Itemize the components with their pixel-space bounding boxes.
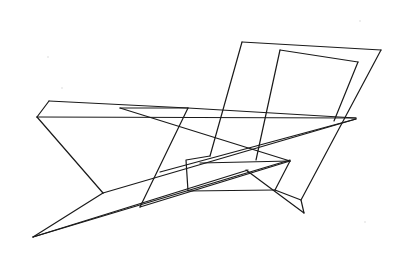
small-triangle-diag xyxy=(120,108,290,161)
speck xyxy=(359,20,361,22)
spike-top-edge xyxy=(103,119,356,193)
back-panel-left xyxy=(210,42,242,156)
spike-lower-2 xyxy=(33,170,248,237)
slab-top-edge xyxy=(49,101,356,118)
inner-panel-right xyxy=(334,62,358,121)
lower-triangle-bottom xyxy=(140,161,290,207)
slab-left-down xyxy=(37,117,103,193)
speck xyxy=(47,56,49,58)
leg-diag xyxy=(246,170,304,213)
inner-panel-left xyxy=(256,50,280,160)
inner-panel-top xyxy=(280,50,358,62)
speck xyxy=(61,87,63,89)
slab-baseline xyxy=(37,117,356,118)
back-panel-right xyxy=(301,50,381,200)
spike-upper xyxy=(33,193,103,237)
wireframe-drawing xyxy=(0,0,403,254)
mid-line-1 xyxy=(160,119,356,172)
speck xyxy=(364,221,366,223)
back-panel-top xyxy=(242,42,381,50)
slab-left-upper xyxy=(37,101,49,117)
